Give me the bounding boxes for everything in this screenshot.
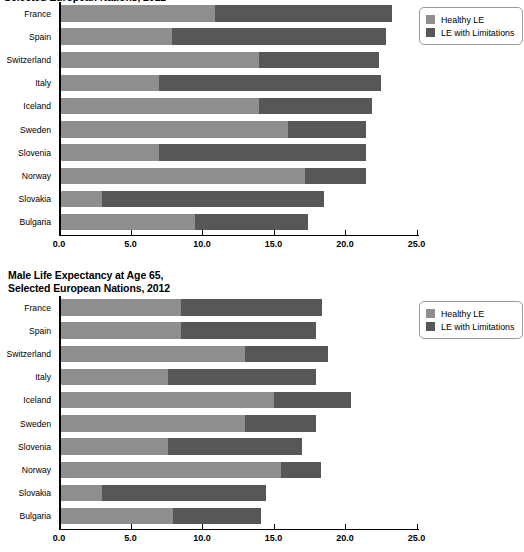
stacked-bar [59,52,379,69]
bar-segment-healthy [59,168,305,185]
bar-track [55,458,524,481]
bar-segment-healthy [59,322,181,339]
bar-track [55,342,524,365]
bar-track [55,412,524,435]
bar-segment-limitations [102,191,324,208]
x-axis-tick [417,230,418,235]
bar-track [55,435,524,458]
y-axis-male [59,296,61,530]
x-axis-tick-label: 0.0 [53,533,66,543]
bar-segment-limitations [159,75,381,92]
bar-segment-healthy [59,438,168,455]
category-label: Bulgaria [0,217,55,227]
legend-swatch-healthy-icon [426,15,435,24]
stacked-bar [59,75,381,92]
bar-segment-limitations [168,369,317,386]
stacked-bar [59,121,366,138]
bar-segment-healthy [59,28,172,45]
category-label: Iceland [0,395,55,405]
x-axis-tick [131,524,132,529]
legend-swatch-limitations-icon [426,322,435,331]
x-axis-tick [202,230,203,235]
bar-segment-limitations [159,144,366,161]
category-label: Switzerland [0,349,55,359]
bar-segment-limitations [172,28,387,45]
bar-row: Switzerland [0,342,524,365]
bar-track [55,72,524,95]
bar-track [55,188,524,211]
bar-track [55,505,524,528]
category-label: Slovenia [0,148,55,158]
bar-segment-limitations [305,168,366,185]
legend-item: LE with Limitations [426,320,514,333]
stacked-bar [59,485,266,502]
x-axis-tick [345,230,346,235]
bar-segment-limitations [259,98,372,115]
bar-segment-healthy [59,369,168,386]
legend-item: Healthy LE [426,307,514,320]
chart-male-life-expectancy: Male Life Expectancy at Age 65, Selected… [0,268,524,552]
category-label: Italy [0,372,55,382]
bar-row: Iceland [0,389,524,412]
x-axis-tick [59,230,60,235]
stacked-bar [59,191,324,208]
bar-segment-limitations [259,52,379,69]
stacked-bar [59,5,392,22]
category-label: Sweden [0,125,55,135]
x-axis-tick-label: 15.0 [265,239,283,249]
bar-segment-limitations [274,392,351,409]
bar-row: Sweden [0,118,524,141]
x-axis-male: 0.05.010.015.020.025.0 [59,529,419,530]
stacked-bar [59,322,316,339]
bar-segment-healthy [59,191,102,208]
x-axis-tick [131,230,132,235]
x-axis-tick-label: 10.0 [193,239,211,249]
stacked-bar [59,438,302,455]
bar-segment-limitations [215,5,392,22]
category-label: Norway [0,465,55,475]
category-label: Spain [0,326,55,336]
bar-segment-limitations [181,322,317,339]
category-label: Switzerland [0,55,55,65]
bar-row: Italy [0,366,524,389]
x-axis-tick [59,524,60,529]
bar-row: Italy [0,72,524,95]
bar-track [55,366,524,389]
legend-swatch-healthy-icon [426,309,435,318]
stacked-bar [59,392,351,409]
bar-row: Switzerland [0,48,524,71]
bar-track [55,482,524,505]
bar-track [55,141,524,164]
bar-track [55,164,524,187]
category-label: Italy [0,78,55,88]
bar-row: Slovakia [0,482,524,505]
category-label: Norway [0,171,55,181]
x-axis-tick-label: 0.0 [53,239,66,249]
bar-row: Iceland [0,95,524,118]
bar-segment-limitations [195,214,308,231]
x-axis-tick-label: 20.0 [336,533,354,543]
chart-female-life-expectancy: Female Life Expectancy at Age 65, Select… [0,0,524,268]
bar-segment-healthy [59,75,159,92]
legend-male: Healthy LELE with Limitations [419,301,523,339]
category-label: Bulgaria [0,511,55,521]
bar-segment-healthy [59,392,274,409]
category-label: Iceland [0,101,55,111]
bar-track [55,48,524,71]
bar-segment-limitations [181,299,323,316]
bar-segment-limitations [102,485,266,502]
y-axis-female [59,2,61,236]
bar-segment-healthy [59,508,173,525]
stacked-bar [59,369,316,386]
legend-label: Healthy LE [441,309,484,319]
category-label: Slovenia [0,442,55,452]
bar-row: Norway [0,458,524,481]
bar-segment-limitations [281,462,321,479]
x-axis-tick-label: 25.0 [408,533,426,543]
x-axis-tick [417,524,418,529]
bar-segment-healthy [59,5,215,22]
bar-segment-limitations [245,415,317,432]
bar-row: Bulgaria [0,211,524,234]
bar-segment-healthy [59,144,159,161]
x-axis-tick-label: 15.0 [265,533,283,543]
